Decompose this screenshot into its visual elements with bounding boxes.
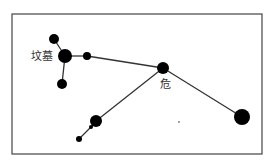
label-tomb: 坟墓 bbox=[31, 51, 53, 62]
connector-line bbox=[96, 68, 163, 121]
star-icon bbox=[49, 34, 59, 44]
star-icon bbox=[157, 62, 169, 74]
star-icon bbox=[83, 52, 91, 60]
connector-line bbox=[87, 56, 163, 68]
star-icon bbox=[178, 121, 179, 122]
connector-line bbox=[163, 68, 242, 117]
star-icon bbox=[58, 49, 72, 63]
star-icon bbox=[89, 125, 93, 129]
star-icon bbox=[234, 109, 250, 125]
star-icon bbox=[76, 136, 82, 142]
label-wei: 危 bbox=[160, 79, 171, 90]
star-chart bbox=[0, 0, 273, 165]
chart-frame bbox=[12, 14, 262, 154]
star-icon bbox=[57, 79, 67, 89]
